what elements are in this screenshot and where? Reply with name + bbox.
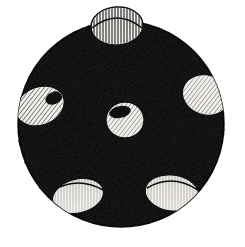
sphere-illustration	[0, 0, 245, 247]
figure-root: A large black stippled circle occupying …	[0, 0, 245, 247]
